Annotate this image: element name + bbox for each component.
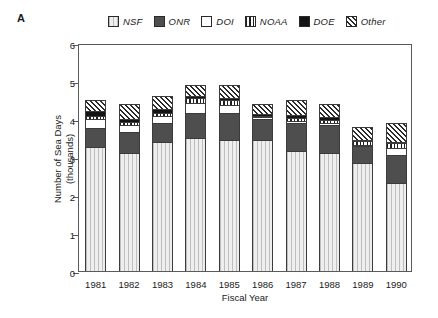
bar-segment-doi — [220, 106, 239, 114]
y-tick-label: 6 — [70, 40, 75, 51]
panel-label: A — [17, 12, 25, 24]
legend-label-noaa: NOAA — [260, 16, 288, 27]
bar-segment-onr — [320, 126, 339, 154]
bar-segment-other — [387, 124, 406, 143]
bar-segment-doi — [186, 104, 205, 115]
bar-1990[interactable] — [386, 123, 407, 271]
bar-segment-nsf — [387, 184, 406, 271]
bar-segment-other — [353, 128, 372, 142]
bar-segment-doi — [153, 117, 172, 124]
bar-segment-onr — [220, 114, 239, 140]
bar-segment-other — [86, 101, 105, 112]
x-axis-label: Fiscal Year — [78, 292, 412, 303]
legend-swatch-doi-icon — [201, 16, 212, 27]
legend-entry-doe[interactable]: DOE — [299, 16, 335, 27]
bar-1985[interactable] — [219, 85, 240, 271]
y-tick-label: 3 — [70, 154, 75, 165]
bar-1983[interactable] — [152, 96, 173, 271]
y-tick-label: 5 — [70, 78, 75, 89]
x-tick-label-1990: 1990 — [386, 279, 407, 290]
bar-segment-onr — [387, 156, 406, 184]
bar-segment-other — [153, 97, 172, 109]
bar-segment-onr — [120, 133, 139, 154]
plot-inner — [79, 45, 411, 271]
legend-swatch-other-icon — [346, 16, 357, 27]
bar-segment-nsf — [253, 141, 272, 271]
bar-segment-onr — [153, 124, 172, 143]
x-tick-label-1981: 1981 — [85, 279, 106, 290]
legend-swatch-onr-icon — [154, 16, 165, 27]
bar-segment-doi — [86, 120, 105, 129]
bar-1988[interactable] — [319, 104, 340, 271]
bar-1982[interactable] — [119, 104, 140, 271]
bar-1984[interactable] — [185, 85, 206, 271]
y-axis-label-line1: Number of Sea Days — [52, 115, 64, 203]
y-tick-label: 2 — [70, 192, 75, 203]
bar-segment-nsf — [153, 143, 172, 271]
bar-segment-nsf — [186, 139, 205, 271]
legend-entry-doi[interactable]: DOI — [201, 16, 234, 27]
bar-1981[interactable] — [85, 100, 106, 271]
bar-segment-doi — [120, 126, 139, 134]
legend-entry-nsf[interactable]: NSF — [108, 16, 143, 27]
legend-swatch-nsf-icon — [108, 16, 119, 27]
y-tick-label: 1 — [70, 230, 75, 241]
legend-label-doe: DOE — [314, 16, 335, 27]
bar-segment-nsf — [220, 141, 239, 271]
bar-segment-onr — [186, 114, 205, 139]
legend-label-nsf: NSF — [123, 16, 143, 27]
bar-1989[interactable] — [352, 127, 373, 271]
x-tick-label-1988: 1988 — [319, 279, 340, 290]
legend-swatch-noaa-icon — [245, 16, 256, 27]
legend-entry-onr[interactable]: ONR — [154, 16, 191, 27]
legend-label-doi: DOI — [216, 16, 234, 27]
bar-segment-onr — [86, 129, 105, 148]
legend-entry-other[interactable]: Other — [346, 16, 386, 27]
bar-segment-other — [186, 86, 205, 97]
plot-area: Number of Sea Days (thousands) 012345619… — [78, 44, 412, 272]
bar-segment-nsf — [320, 154, 339, 271]
bar-segment-nsf — [86, 148, 105, 271]
x-tick-label-1985: 1985 — [219, 279, 240, 290]
x-tick-label-1982: 1982 — [119, 279, 140, 290]
bar-segment-onr — [353, 147, 372, 164]
bar-1986[interactable] — [252, 104, 273, 271]
bar-segment-other — [220, 86, 239, 99]
x-tick-label-1986: 1986 — [252, 279, 273, 290]
x-tick-label-1984: 1984 — [185, 279, 206, 290]
bar-segment-onr — [287, 124, 306, 152]
x-tick-label-1989: 1989 — [352, 279, 373, 290]
legend-entry-noaa[interactable]: NOAA — [245, 16, 288, 27]
bar-segment-nsf — [353, 164, 372, 271]
bar-segment-nsf — [120, 154, 139, 271]
chart-legend: NSFONRDOINOAADOEOther — [108, 14, 386, 28]
y-tick-label: 0 — [70, 268, 75, 279]
bar-segment-other — [320, 105, 339, 118]
y-tick-label: 4 — [70, 116, 75, 127]
bar-1987[interactable] — [286, 100, 307, 271]
x-tick-label-1983: 1983 — [152, 279, 173, 290]
x-tick-label-1987: 1987 — [286, 279, 307, 290]
bar-segment-other — [287, 101, 306, 116]
bar-segment-other — [120, 105, 139, 120]
bar-segment-onr — [253, 120, 272, 141]
bar-segment-doi — [387, 149, 406, 156]
legend-label-other: Other — [361, 16, 386, 27]
legend-swatch-doe-icon — [299, 16, 310, 27]
bar-segment-nsf — [287, 152, 306, 271]
legend-label-onr: ONR — [169, 16, 191, 27]
bar-segment-other — [253, 105, 272, 115]
chart-figure: A NSFONRDOINOAADOEOther Number of Sea Da… — [0, 0, 438, 318]
